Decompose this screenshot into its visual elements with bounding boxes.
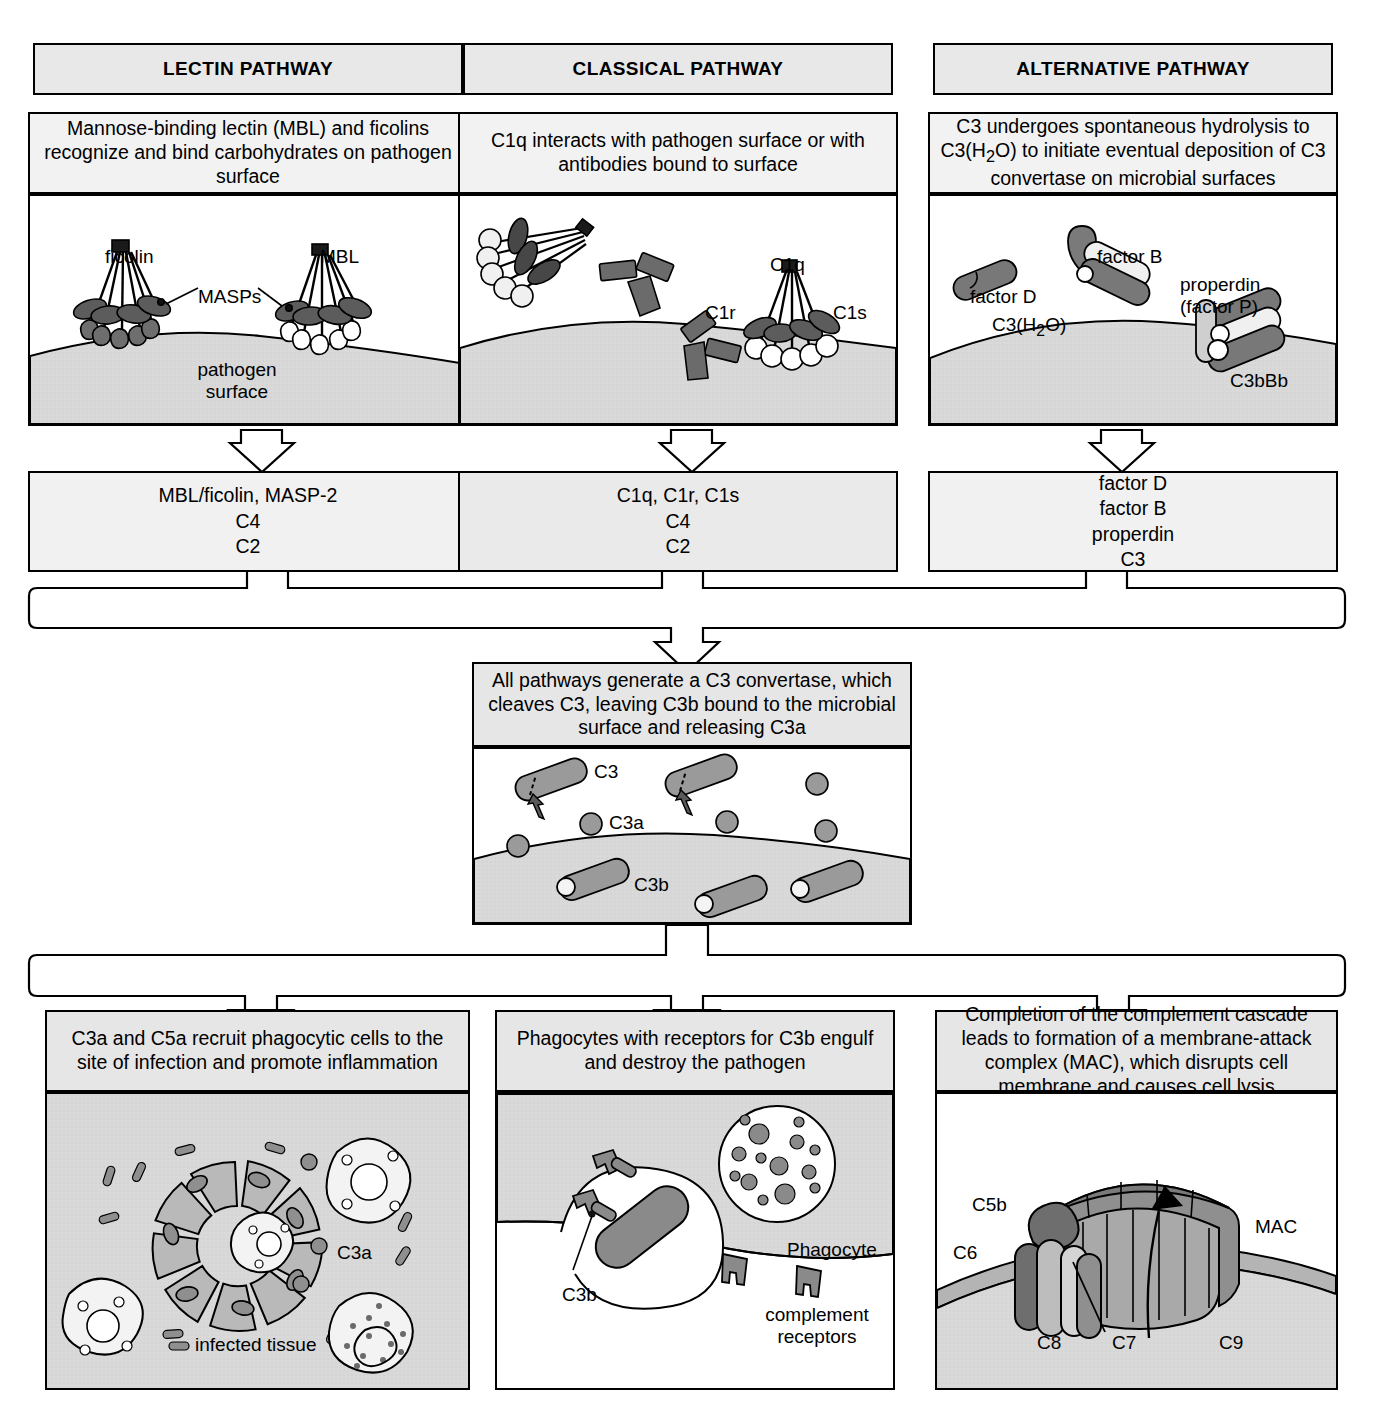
component-item: C2 (159, 534, 338, 559)
label-masps: MASPs (198, 286, 261, 308)
component-item: factor D (1092, 471, 1174, 496)
component-item: properdin (1092, 522, 1174, 547)
label-phagocyte: Phagocyte (787, 1239, 877, 1261)
label-c3-h2o: C3(H2O) (992, 314, 1066, 340)
outcome-illustration-lysis: C5b C6 C7 C8 C9 MAC (935, 1092, 1338, 1390)
center-artwork (474, 749, 910, 923)
pathway-title-alternative: ALTERNATIVE PATHWAY (933, 43, 1333, 95)
label-c3a: C3a (609, 812, 644, 834)
label-mbl: MBL (320, 246, 359, 268)
label-c5b: C5b (972, 1194, 1007, 1216)
label-factor-d: factor D (970, 286, 1037, 308)
label-c3a-outcome: C3a (337, 1242, 372, 1264)
label-c3b-phagocytosis: C3b (562, 1284, 597, 1306)
label-infected-tissue: infected tissue (195, 1334, 316, 1356)
pathway-description-alternative: C3 undergoes spontaneous hydrolysis to C… (928, 112, 1338, 194)
alternative-description-text: C3 undergoes spontaneous hydrolysis to C… (940, 115, 1326, 190)
complement-diagram: LECTIN PATHWAY Mannose-binding lectin (M… (0, 0, 1384, 1418)
label-factor-b: factor B (1097, 246, 1162, 268)
mac-artwork (937, 1094, 1336, 1388)
pathway-illustration-lectin: ficolin MBL MASPs pathogen surface (28, 194, 468, 426)
pathway-illustration-classical: C1q C1r C1s (458, 194, 898, 426)
outcome-illustration-inflammation: C3a infected tissue (45, 1092, 470, 1390)
classical-artwork (460, 196, 896, 424)
label-c3b: C3b (634, 874, 669, 896)
outcome-illustration-phagocytosis: C3b Phagocyte complement receptors (495, 1092, 895, 1390)
component-item: C2 (617, 534, 739, 559)
component-item: C4 (159, 509, 338, 534)
component-item: MBL/ficolin, MASP-2 (159, 483, 338, 508)
outcome-description-inflammation: C3a and C5a recruit phagocytic cells to … (45, 1010, 470, 1092)
merge-connector-to-center (29, 571, 1345, 672)
pathway-components-classical: C1q, C1r, C1s C4 C2 (458, 471, 898, 572)
label-c3: C3 (594, 761, 618, 783)
pathway-description-classical: C1q interacts with pathogen surface or w… (458, 112, 898, 194)
label-mac: MAC (1255, 1216, 1297, 1238)
label-pathogen-surface: pathogen surface (182, 359, 292, 403)
arrow-classical-desc-to-art (660, 430, 724, 472)
label-c7: C7 (1112, 1332, 1136, 1354)
pathway-illustration-alternative: factor D factor B C3(H2O) properdin(fact… (928, 194, 1338, 426)
label-c9: C9 (1219, 1332, 1243, 1354)
label-c8: C8 (1037, 1332, 1061, 1354)
pathway-components-alternative: factor D factor B properdin C3 (928, 471, 1338, 572)
pathway-description-lectin: Mannose-binding lectin (MBL) and ficolin… (28, 112, 468, 194)
pathway-components-lectin: MBL/ficolin, MASP-2 C4 C2 (28, 471, 468, 572)
label-c1r: C1r (705, 302, 736, 324)
label-properdin: properdin(factor P) (1180, 274, 1330, 318)
label-c6: C6 (953, 1242, 977, 1264)
label-ficolin: ficolin (105, 246, 154, 268)
arrow-alternative-desc-to-art (1090, 430, 1154, 472)
components-list-alternative: factor D factor B properdin C3 (1092, 471, 1174, 572)
components-list-classical: C1q, C1r, C1s C4 C2 (617, 483, 739, 559)
pathway-title-classical: CLASSICAL PATHWAY (463, 43, 893, 95)
label-c3bbb: C3bBb (1230, 370, 1288, 392)
center-illustration: C3 C3a C3b (472, 747, 912, 925)
component-item: C4 (617, 509, 739, 534)
component-item: C3 (1092, 547, 1174, 572)
arrow-lectin-desc-to-art (230, 430, 294, 472)
label-complement-receptors: complement receptors (747, 1304, 887, 1348)
components-list-lectin: MBL/ficolin, MASP-2 C4 C2 (159, 483, 338, 559)
pathway-title-lectin: LECTIN PATHWAY (33, 43, 463, 95)
component-item: C1q, C1r, C1s (617, 483, 739, 508)
label-c1q: C1q (770, 254, 805, 276)
outcome-description-phagocytosis: Phagocytes with receptors for C3b engulf… (495, 1010, 895, 1092)
label-c1s: C1s (833, 302, 867, 324)
component-item: factor B (1092, 496, 1174, 521)
outcome-description-lysis: Completion of the complement cascade lea… (935, 1010, 1338, 1092)
center-description: All pathways generate a C3 convertase, w… (472, 662, 912, 747)
